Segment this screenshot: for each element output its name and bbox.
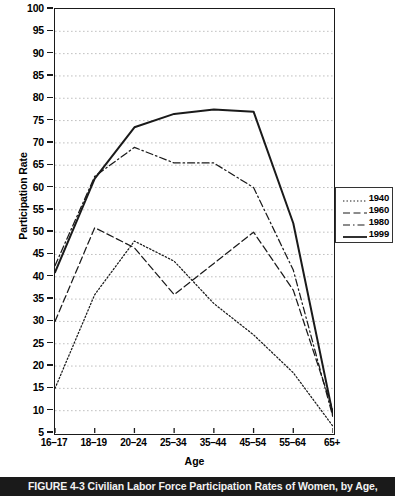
series-line-1960 [55,228,333,411]
y-axis-tick-label: 15 [33,382,44,392]
y-axis-tick-label: 85 [33,70,44,80]
legend-item-1960: 1960 [338,203,389,215]
figure-caption: FIGURE 4-3 Civilian Labor Force Particip… [28,480,388,492]
legend-item-1999: 1999 [338,227,389,239]
y-axis-tick-mark [47,164,53,165]
y-axis-title: Participation Rate [17,126,29,266]
y-axis-tick-mark [47,141,53,142]
y-axis-tick-mark [47,230,53,231]
y-axis-tick-label: 90 [33,48,44,58]
chart-lines [55,9,333,433]
x-axis-tick-label: 35–44 [200,437,226,448]
y-axis-tick-label: 45 [33,248,44,258]
y-axis-tick-mark [47,30,53,31]
y-axis-tick-label: 60 [33,182,44,192]
y-axis-tick-mark [47,186,53,187]
series-line-1940 [55,241,333,426]
y-axis-tick-mark [47,208,53,209]
plot-area [54,8,335,435]
y-axis-tick-mark [47,364,53,365]
y-axis-tick-mark [47,320,53,321]
y-axis-tick-mark [47,342,53,343]
y-axis-tick-mark [47,387,53,388]
y-axis-tick-label: 50 [33,226,44,236]
x-axis-title: Age [54,455,335,467]
y-axis-tick-mark [47,119,53,120]
legend-label: 1980 [369,216,389,227]
legend-label: 1960 [369,204,389,215]
legend-label: 1940 [369,192,389,203]
y-axis-tick-mark [47,253,53,254]
x-axis-tick-label: 20–24 [120,437,146,448]
y-axis-tick-label: 40 [33,271,44,281]
y-axis-tick-mark [47,97,53,98]
y-axis-tick-label: 100 [27,3,44,13]
figure-caption-bar: FIGURE 4-3 Civilian Labor Force Particip… [0,477,395,496]
legend-swatch-1999 [342,228,368,238]
y-axis-tick-label: 65 [33,159,44,169]
x-axis: 16–1718–1920–2425–3435–4445–5455–6465+ [0,437,395,455]
y-axis-tick-label: 5 [38,427,44,437]
y-axis-tick-label: 35 [33,293,44,303]
y-axis-tick-label: 10 [33,405,44,415]
y-axis-tick-label: 20 [33,360,44,370]
y-axis-tick-label: 75 [33,115,44,125]
y-axis-tick-mark [47,74,53,75]
x-axis-tick-label: 18–19 [81,437,107,448]
y-axis-tick-mark [47,52,53,53]
x-axis-tick-label: 16–17 [41,437,67,448]
y-axis-tick-mark [47,431,53,432]
legend-swatch-1940 [342,192,368,202]
x-axis-tick-label: 65+ [324,437,340,448]
y-axis-tick-label: 55 [33,204,44,214]
legend-item-1940: 1940 [338,191,389,203]
y-axis-tick-label: 70 [33,137,44,147]
legend-swatch-1980 [342,216,368,226]
x-axis-tick-label: 45–54 [239,437,265,448]
y-axis-tick-mark [47,275,53,276]
legend-swatch-1960 [342,204,368,214]
legend-item-1980: 1980 [338,215,389,227]
y-axis-tick-label: 95 [33,25,44,35]
y-axis-tick-label: 80 [33,92,44,102]
y-axis-tick-mark [47,297,53,298]
legend-label: 1999 [369,228,389,239]
y-axis-tick-mark [47,409,53,410]
y-axis-tick-label: 30 [33,315,44,325]
figure-container: 1009590858075706560555045403530252015105… [0,0,395,496]
x-axis-tick-label: 25–34 [160,437,186,448]
chart-legend: 1940196019801999 [335,187,393,243]
x-axis-tick-label: 55–64 [279,437,305,448]
y-axis-tick-label: 25 [33,338,44,348]
y-axis-tick-mark [47,7,53,8]
series-line-1999 [55,109,333,415]
